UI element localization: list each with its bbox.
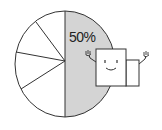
pie-slice-line xyxy=(16,52,65,61)
character-body xyxy=(96,49,126,86)
pie-chart-illustration: 50% xyxy=(0,0,162,130)
character-hand-right-icon xyxy=(144,51,149,57)
character-side xyxy=(126,60,139,86)
character-arm-right xyxy=(139,56,146,64)
pie-slice-line xyxy=(36,22,65,61)
pie-slice-line xyxy=(21,61,65,89)
percent-label: 50% xyxy=(69,29,96,45)
